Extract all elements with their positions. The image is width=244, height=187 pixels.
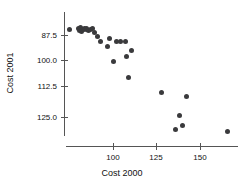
data-point bbox=[92, 30, 97, 35]
y-axis-title: Cost 2001 bbox=[5, 42, 15, 104]
y-tick-mark bbox=[61, 60, 68, 61]
data-point bbox=[107, 36, 112, 41]
y-tick-label: 87.5 bbox=[21, 31, 57, 40]
data-point bbox=[180, 123, 185, 128]
data-point bbox=[124, 54, 129, 59]
x-tick-mark bbox=[113, 143, 114, 150]
data-point bbox=[177, 113, 182, 118]
data-point bbox=[111, 59, 116, 64]
x-axis-title: Cost 2000 bbox=[0, 168, 244, 178]
y-tick-label: 125.0 bbox=[21, 113, 57, 122]
data-point bbox=[159, 90, 164, 95]
x-tick-label: 125 bbox=[141, 153, 171, 162]
data-point bbox=[84, 27, 89, 32]
x-tick-label: 150 bbox=[185, 153, 215, 162]
x-axis-line bbox=[66, 146, 238, 147]
data-point bbox=[78, 25, 83, 30]
data-point bbox=[225, 129, 230, 134]
data-point bbox=[84, 26, 89, 31]
data-point bbox=[77, 28, 82, 33]
y-tick-label: 100.0 bbox=[21, 56, 57, 65]
y-tick-mark bbox=[61, 86, 68, 87]
data-point bbox=[105, 44, 110, 49]
data-point bbox=[173, 127, 178, 132]
y-tick-label: 112.5 bbox=[21, 82, 57, 91]
data-point bbox=[80, 27, 85, 32]
scatter-plot-figure: 87.5100.0112.5125.0 100125150 Cost 2001 … bbox=[0, 0, 244, 187]
data-point bbox=[118, 39, 123, 44]
data-point bbox=[129, 48, 134, 53]
y-tick-mark bbox=[61, 35, 68, 36]
data-point bbox=[81, 27, 86, 32]
data-point bbox=[126, 75, 131, 80]
data-point bbox=[82, 26, 87, 31]
data-point bbox=[90, 26, 95, 31]
data-point bbox=[184, 94, 189, 99]
data-point bbox=[98, 39, 103, 44]
x-tick-mark bbox=[156, 143, 157, 150]
data-point bbox=[86, 28, 91, 33]
data-point bbox=[88, 27, 93, 32]
y-tick-mark bbox=[61, 117, 68, 118]
data-point bbox=[114, 39, 119, 44]
x-tick-mark bbox=[200, 143, 201, 150]
data-point bbox=[76, 26, 81, 31]
data-point bbox=[123, 39, 128, 44]
data-point bbox=[67, 27, 72, 32]
data-point bbox=[95, 34, 100, 39]
data-point bbox=[79, 29, 84, 34]
x-tick-label: 100 bbox=[98, 153, 128, 162]
